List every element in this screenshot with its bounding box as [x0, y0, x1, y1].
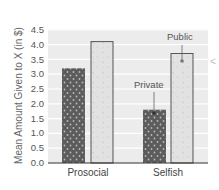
bar-prosocial-private	[62, 68, 85, 163]
y-tick: 4.5	[18, 25, 44, 35]
y-tick: 0.5	[18, 143, 44, 153]
y-tick: 1.0	[18, 128, 44, 138]
annotation-private: Private	[134, 79, 164, 90]
bar-selfish-private	[143, 110, 166, 163]
bar-prosocial-public	[91, 42, 113, 163]
y-tick: 2.5	[18, 84, 44, 94]
public-marker	[180, 59, 184, 63]
private-marker	[152, 111, 156, 115]
y-tick: 4.0	[18, 40, 44, 50]
x-label-selfish: Selfish	[138, 167, 198, 178]
y-tick: 1.5	[18, 114, 44, 124]
arrow-left-icon: <	[210, 56, 216, 67]
x-label-prosocial: Prosocial	[58, 167, 118, 178]
y-tick: 3.5	[18, 55, 44, 65]
annotation-public: Public	[167, 31, 193, 42]
y-tick: 3.0	[18, 69, 44, 79]
y-tick: 2.0	[18, 99, 44, 109]
bar-selfish-public	[171, 54, 193, 164]
bar-chart: Mean Amount Given to X (in $) 4.5 4.0 3.…	[0, 0, 219, 190]
y-tick: 0.0	[18, 158, 44, 168]
